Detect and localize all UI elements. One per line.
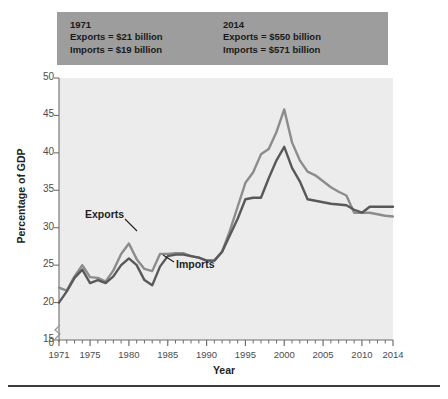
line-chart-plot bbox=[0, 0, 448, 399]
footer-divider bbox=[8, 385, 440, 387]
series-label-exports: Exports bbox=[85, 208, 124, 220]
series-label-imports: Imports bbox=[176, 258, 215, 270]
series-line-exports bbox=[59, 109, 393, 290]
leader-line-exports bbox=[125, 219, 137, 231]
figure-container: 1971 Exports = $21 billion Imports = $19… bbox=[0, 0, 448, 399]
series-line-imports bbox=[59, 147, 393, 303]
